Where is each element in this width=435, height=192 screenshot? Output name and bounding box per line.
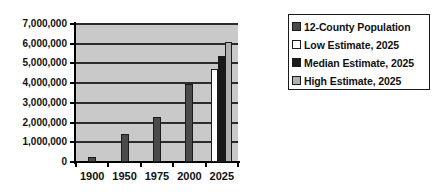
gridline [76, 43, 238, 45]
y-axis-tick [70, 141, 76, 143]
x-axis-tick [237, 161, 239, 167]
legend-swatch-icon [292, 58, 301, 67]
population-bar-chart: 7,000,0006,000,0005,000,0004,000,0003,00… [0, 0, 435, 192]
legend-item-label: High Estimate, 2025 [304, 75, 401, 87]
x-axis-tick-label: 2025 [196, 170, 248, 182]
y-axis-tick-label: 3,000,000 [23, 98, 68, 108]
y-axis-tick-label: 5,000,000 [23, 58, 68, 68]
y-axis-tick-label: 0 [61, 157, 67, 167]
legend-item-label: Low Estimate, 2025 [304, 39, 399, 51]
bar [218, 56, 225, 162]
bar [121, 134, 129, 162]
x-axis-tick [75, 161, 77, 167]
legend-item-label: Median Estimate, 2025 [304, 57, 414, 69]
legend-swatch-icon [292, 22, 301, 31]
y-axis-tick [70, 102, 76, 104]
y-axis-tick-label: 6,000,000 [23, 39, 68, 49]
chart-legend: 12-County PopulationLow Estimate, 2025Me… [288, 14, 430, 90]
y-axis-tick [70, 122, 76, 124]
gridline [76, 62, 238, 64]
legend-item[interactable]: Low Estimate, 2025 [292, 36, 426, 53]
x-axis-tick [107, 161, 109, 167]
bar [153, 117, 161, 162]
y-axis-tick-label: 1,000,000 [23, 137, 68, 147]
legend-item-label: 12-County Population [304, 21, 411, 33]
bar [185, 84, 193, 162]
legend-item[interactable]: Median Estimate, 2025 [292, 54, 426, 71]
x-axis-tick [172, 161, 174, 167]
gridline [76, 23, 238, 25]
y-axis-tick [70, 23, 76, 25]
y-axis-tick-label: 4,000,000 [23, 78, 68, 88]
bar [225, 42, 232, 162]
y-axis-tick [70, 43, 76, 45]
x-axis-tick [205, 161, 207, 167]
legend-item[interactable]: High Estimate, 2025 [292, 72, 426, 89]
legend-swatch-icon [292, 40, 301, 49]
y-axis-tick [70, 82, 76, 84]
legend-item[interactable]: 12-County Population [292, 18, 426, 35]
x-axis-tick [140, 161, 142, 167]
y-axis-tick-label: 7,000,000 [23, 19, 68, 29]
legend-swatch-icon [292, 76, 301, 85]
bar [211, 69, 218, 162]
y-axis-tick [70, 62, 76, 64]
y-axis-tick-label: 2,000,000 [23, 118, 68, 128]
bar [88, 157, 96, 162]
